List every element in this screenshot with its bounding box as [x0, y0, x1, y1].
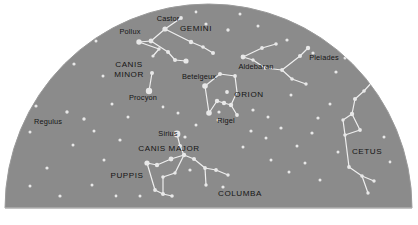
- star-marker: [82, 117, 85, 120]
- star-marker: [91, 184, 94, 187]
- star-marker: [310, 131, 313, 134]
- constellation-label: ORION: [234, 90, 263, 99]
- star-marker: [360, 174, 364, 178]
- star-marker: [182, 153, 186, 157]
- star-marker: [188, 168, 191, 171]
- star-marker: [251, 108, 254, 111]
- star-marker: [389, 161, 392, 164]
- star-label: Procyon: [129, 93, 157, 102]
- constellation-label-line: COLUMBA: [218, 189, 262, 198]
- star-marker: [29, 131, 32, 134]
- star-marker: [372, 179, 375, 182]
- star-chart-figure: CastorPolluxBetelgeuxAldebaranProcyonReg…: [0, 0, 418, 225]
- star-marker: [58, 194, 61, 197]
- star-marker: [127, 116, 130, 119]
- star-marker: [150, 71, 154, 75]
- star-marker: [173, 58, 177, 62]
- constellation-label: COLUMBA: [218, 189, 262, 198]
- star-label: Sirius: [158, 129, 178, 138]
- star-label: Regulus: [34, 117, 62, 126]
- star-marker: [144, 160, 149, 165]
- star-marker: [162, 106, 165, 109]
- constellation-label-line: CANIS: [115, 60, 143, 69]
- star-marker: [102, 75, 105, 78]
- star-marker: [103, 159, 106, 162]
- star-marker: [118, 138, 121, 141]
- star-marker: [162, 26, 167, 31]
- star-label: Betelgeux: [182, 72, 216, 81]
- constellation-label: PUPPIS: [111, 171, 144, 180]
- star-label: Rigel: [217, 116, 235, 125]
- star-label: Aldebaran: [238, 62, 273, 71]
- star-marker: [153, 188, 157, 192]
- star-marker: [226, 173, 229, 176]
- star-marker: [161, 192, 165, 196]
- star-marker: [72, 62, 75, 65]
- star-marker: [195, 11, 198, 14]
- star-marker: [95, 40, 98, 43]
- constellation-label-line: PUPPIS: [111, 171, 144, 180]
- constellation-label-line: ORION: [234, 90, 263, 99]
- star-marker: [151, 54, 154, 57]
- star-marker: [45, 166, 48, 169]
- star-marker: [115, 195, 118, 198]
- star-marker: [257, 25, 260, 28]
- star-marker: [290, 94, 293, 97]
- star-marker: [166, 50, 170, 54]
- star-marker: [72, 144, 75, 147]
- constellation-label: GEMINI: [180, 24, 212, 33]
- constellation-label-line: GEMINI: [180, 24, 212, 33]
- star-marker: [337, 151, 340, 154]
- star-marker: [226, 28, 229, 31]
- constellation-label: CETUS: [352, 147, 382, 156]
- star-marker: [195, 124, 198, 127]
- star-marker: [319, 179, 322, 182]
- star-marker: [179, 16, 183, 20]
- star-marker: [149, 39, 154, 44]
- star-marker: [316, 116, 319, 119]
- constellation-label: CANIS MAJOR: [138, 144, 199, 153]
- star-marker: [341, 118, 344, 121]
- constellation-label-line: CETUS: [352, 147, 382, 156]
- star-marker: [204, 183, 207, 186]
- star-marker: [222, 101, 226, 105]
- star-marker: [183, 135, 186, 138]
- star-marker: [358, 128, 362, 132]
- star-marker: [288, 171, 291, 174]
- star-marker: [260, 46, 264, 50]
- star-marker: [239, 13, 242, 16]
- star-marker: [267, 116, 270, 119]
- sky-dome-svg: CastorPolluxBetelgeuxAldebaranProcyonReg…: [0, 0, 418, 225]
- star-marker: [136, 39, 141, 44]
- star-marker: [203, 166, 207, 170]
- star-marker: [111, 103, 114, 106]
- star-marker: [34, 104, 37, 107]
- constellation-label-line: MINOR: [114, 70, 144, 79]
- star-marker: [173, 171, 176, 174]
- star-marker: [290, 77, 294, 81]
- star-marker: [304, 82, 307, 85]
- star-marker: [229, 103, 233, 107]
- star-marker: [211, 51, 215, 55]
- star-label: Pollux: [119, 27, 140, 36]
- star-marker: [304, 162, 307, 165]
- star-marker: [201, 45, 205, 49]
- star-marker: [270, 159, 273, 162]
- star-marker: [217, 110, 220, 113]
- star-marker: [383, 136, 386, 139]
- star-marker: [155, 163, 159, 167]
- star-marker: [233, 74, 237, 78]
- star-marker: [353, 97, 357, 101]
- star-marker: [192, 157, 196, 161]
- star-marker: [235, 113, 239, 117]
- star-marker: [347, 165, 351, 169]
- constellation-label: CANISMINOR: [114, 60, 144, 79]
- star-marker: [329, 103, 332, 106]
- star-marker: [306, 46, 310, 50]
- star-marker: [265, 137, 268, 140]
- star-marker: [139, 195, 142, 198]
- star-marker: [249, 129, 252, 132]
- star-marker: [362, 89, 366, 93]
- star-marker: [65, 110, 68, 113]
- star-marker: [274, 42, 278, 46]
